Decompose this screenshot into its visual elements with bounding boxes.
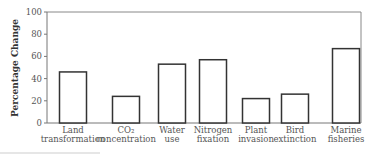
y-tick-label: 40 (31, 74, 42, 84)
bar (200, 60, 227, 123)
bar (333, 49, 360, 123)
x-category-label: extinction (274, 134, 317, 144)
bar (60, 72, 87, 123)
bar (243, 99, 270, 123)
y-tick-label: 60 (31, 51, 42, 61)
x-category-label: fixation (197, 134, 230, 144)
bar-chart: 020406080100 LandtransformationCO₂concen… (0, 0, 369, 157)
y-axis: 020406080100 (26, 7, 47, 128)
x-axis-labels: LandtransformationCO₂concentrationWateru… (41, 125, 365, 144)
divider (0, 152, 100, 154)
y-tick-label: 20 (31, 96, 42, 106)
x-category-label: use (165, 134, 180, 144)
x-category-label: concentration (96, 134, 156, 144)
bar (113, 96, 140, 123)
bar (159, 64, 186, 123)
bars (60, 49, 360, 123)
y-axis-label: Percentage Change (10, 19, 20, 117)
bar (282, 94, 309, 123)
y-tick-label: 0 (37, 118, 42, 128)
x-category-label: invasion (238, 134, 274, 144)
x-category-label: fisheries (328, 134, 365, 144)
y-tick-label: 80 (31, 29, 42, 39)
y-tick-label: 100 (26, 7, 42, 17)
